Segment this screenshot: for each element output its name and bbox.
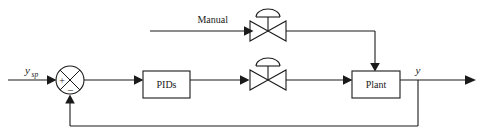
valve-out-arrowhead — [343, 75, 353, 85]
plant-output-line — [400, 75, 476, 85]
output-arrowhead — [465, 75, 476, 85]
error-to-pids-line — [84, 75, 144, 85]
manual-valve-to-plant-line — [286, 31, 380, 72]
pids-block-label: PIDs — [156, 79, 176, 90]
manual-input-line — [150, 26, 254, 36]
summing-junction-plus-sign: + — [59, 75, 65, 86]
block-diagram-canvas: y sp + – Manual PIDs Plant y — [0, 0, 482, 138]
manual-input-arrowhead — [244, 26, 254, 36]
setpoint-label: y sp — [24, 64, 38, 79]
pids-to-valve-line — [190, 75, 250, 85]
plant-block-label: Plant — [366, 79, 387, 90]
valve-to-plant-line — [286, 75, 353, 85]
output-label: y — [415, 64, 421, 76]
control-valve[interactable] — [250, 58, 286, 90]
manual-to-plant-arrowhead — [370, 63, 380, 72]
manual-label: Manual — [197, 14, 228, 25]
feedback-arrowhead — [65, 95, 75, 104]
setpoint-label-subscript: sp — [32, 70, 39, 79]
pids-out-arrowhead — [240, 75, 250, 85]
block-diagram-svg: y sp + – Manual PIDs Plant y — [0, 0, 482, 138]
setpoint-arrowhead — [47, 75, 57, 85]
manual-valve[interactable] — [250, 9, 286, 41]
summing-junction-minus-sign: – — [67, 84, 74, 95]
error-arrowhead — [134, 75, 144, 85]
setpoint-label-main: y — [24, 64, 30, 76]
